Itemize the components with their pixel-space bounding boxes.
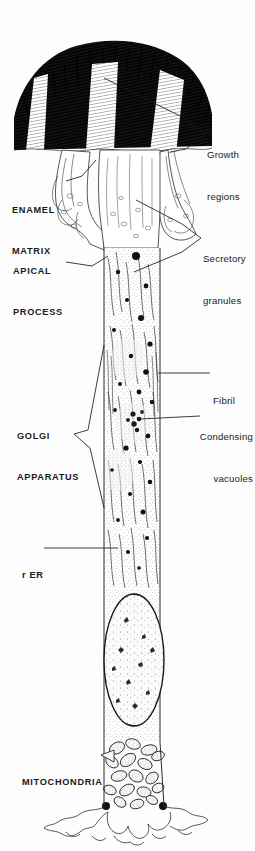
apical-process: [99, 150, 162, 248]
apical-process: [52, 150, 104, 250]
mitochondria-group: [102, 737, 167, 811]
label-enamel-matrix-line1: ENAMEL: [12, 204, 55, 218]
label-rer-line1: r ER: [22, 569, 44, 583]
label-condensing-vacuoles: Condensing vacuoles: [186, 402, 253, 500]
label-mitochondria-line1: MITOCHONDRIA: [22, 776, 103, 790]
label-apical-process-line2: PROCESS: [13, 306, 63, 320]
label-apical-process: APICAL PROCESS: [13, 238, 63, 333]
label-growth-regions: Growth regions: [207, 120, 240, 218]
basal-process-group: [44, 806, 208, 845]
label-golgi-apparatus: GOLGI APPARATUS: [17, 403, 79, 498]
apical-process: [160, 150, 196, 240]
label-rer: r ER: [22, 542, 44, 596]
label-growth-regions-line2: regions: [207, 190, 240, 204]
label-mitochondria: MITOCHONDRIA: [22, 749, 103, 803]
label-condensing-vacuoles-line2: vacuoles: [186, 472, 253, 486]
label-golgi-apparatus-line1: GOLGI: [17, 430, 79, 444]
label-secretory-granules-line2: granules: [203, 294, 246, 308]
apical-process-group: [52, 150, 196, 250]
label-apical-process-line1: APICAL: [13, 265, 63, 279]
label-secretory-granules-line1: Secretory: [203, 252, 246, 266]
label-secretory-granules: Secretory granules: [203, 224, 246, 322]
label-golgi-apparatus-line2: APPARATUS: [17, 471, 79, 485]
leader-apical-process: [66, 256, 108, 266]
label-growth-regions-line1: Growth: [207, 148, 240, 162]
label-condensing-vacuoles-line1: Condensing: [186, 430, 253, 444]
enamel-matrix: [10, 40, 216, 155]
